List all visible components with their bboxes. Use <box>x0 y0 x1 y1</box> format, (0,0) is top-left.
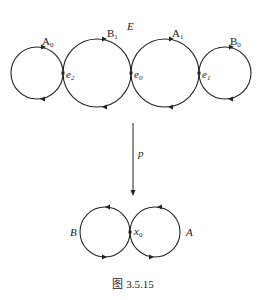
loop-A1 <box>131 39 199 107</box>
loop-A0 <box>11 47 63 99</box>
point-e1 <box>198 72 201 75</box>
label-B0: B0 <box>230 35 241 49</box>
point-x0 <box>129 231 132 234</box>
label-e2: e2 <box>66 68 75 82</box>
label-x0: x0 <box>133 225 143 239</box>
arrow-icon <box>157 205 162 210</box>
label-A: A <box>185 226 193 238</box>
loop-B1 <box>63 39 131 107</box>
arrow-icon <box>102 255 107 260</box>
arrow-down-icon <box>131 190 136 196</box>
arrow-icon <box>149 255 154 260</box>
figure-caption: 图 3.5.15 <box>112 278 154 290</box>
label-A1: A1 <box>172 27 184 41</box>
label-e0: e0 <box>134 68 143 82</box>
label-p: p <box>137 147 144 159</box>
projection-arrow <box>131 123 136 196</box>
arrow-icon <box>102 105 107 110</box>
label-E: E <box>126 20 134 32</box>
loop-B <box>80 207 130 257</box>
arrow-icon <box>168 105 173 110</box>
label-B1: B1 <box>107 27 118 41</box>
label-B: B <box>70 226 77 238</box>
point-e2 <box>62 72 65 75</box>
label-e1: e1 <box>202 68 210 82</box>
label-A0: A0 <box>42 35 54 49</box>
arrow-icon <box>228 97 233 102</box>
arrowheads-lower <box>102 205 162 260</box>
arrow-icon <box>40 97 45 102</box>
arrow-icon <box>105 205 110 210</box>
point-e0 <box>130 72 133 75</box>
covering-space-diagram: E A0 B1 A1 B0 e2 e0 e1 p B A x0 图 3.5.15 <box>0 0 266 300</box>
points-upper <box>62 72 201 75</box>
